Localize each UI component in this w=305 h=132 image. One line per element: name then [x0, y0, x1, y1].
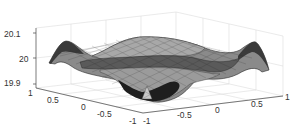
y-tick-label: 1	[28, 89, 33, 98]
x-tick-label: 0	[215, 106, 220, 115]
x-tick-label: -0.5	[177, 111, 192, 120]
y-tick-label: -0.5	[97, 110, 112, 119]
x-tick-label: -1	[143, 117, 151, 126]
z-tick-label: 20	[19, 55, 28, 64]
x-tick-label: 1	[285, 93, 290, 102]
z-tick-label: 19.9	[4, 79, 21, 88]
x-tick-label: 0.5	[251, 100, 263, 109]
surface-plot	[0, 0, 305, 132]
y-tick-label: 0	[81, 103, 86, 112]
y-tick-label: 0.5	[47, 96, 59, 105]
z-tick-label: 20.1	[4, 30, 21, 39]
y-tick-label: -1	[129, 117, 137, 126]
